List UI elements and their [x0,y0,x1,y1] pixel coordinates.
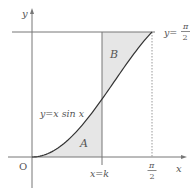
y-axis-label: y [21,8,28,19]
y-axis-arrow-icon [30,8,34,14]
xtick-pi-over-2-label: π 2 [148,161,157,181]
region-a-label: A [79,137,88,150]
function-label: y=x sin x [39,108,85,119]
svg-text:2: 2 [150,172,155,181]
svg-text:π: π [182,22,189,31]
vertical-line-label: x=k [90,168,109,179]
x-axis-label: x [176,163,182,174]
svg-text:π: π [148,161,155,170]
x-axis-arrow-icon [181,155,187,159]
horizontal-line-label: y= π 2 [163,22,190,42]
svg-text:2: 2 [183,33,188,42]
region-b-label: B [109,48,118,61]
origin-label: O [19,161,27,172]
diagram-canvas: y x O y=x sin x x=k A B y= π 2 π 2 [0,0,193,191]
svg-text:y=: y= [163,27,177,38]
